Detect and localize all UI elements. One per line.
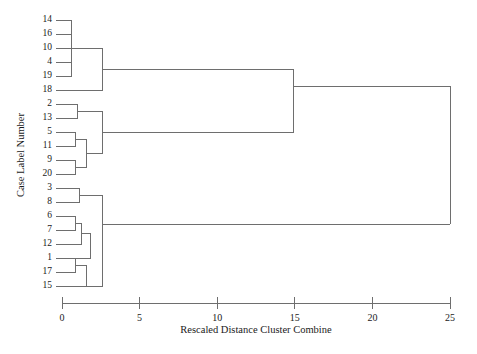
link-3-8 [63,188,79,202]
x-tick-label-20: 20 [367,312,377,323]
leaf-label-12: 12 [43,238,53,248]
link-9-20 [63,160,75,174]
y-axis-title: Case Label Number [15,113,26,197]
x-tick-label-10: 10 [212,312,222,323]
leaf-label-8: 8 [47,196,52,206]
leaf-label-17: 17 [43,266,53,276]
leaf-label-6: 6 [47,210,52,220]
link-m7-m8 [75,139,86,167]
dendrogram-link-group [63,20,450,286]
x-tick-label-15: 15 [290,312,300,323]
x-axis-tick-labels: 0510152025 [60,312,456,323]
leaf-label-20: 20 [43,168,53,178]
leaf-label-18: 18 [43,84,53,94]
link-6-7 [63,216,75,230]
link-m14-m16 [75,233,90,258]
y-axis-group: Case Label Number [15,113,26,197]
x-tick-label-5: 5 [137,312,142,323]
link-5-11 [63,132,75,146]
leaf-label-2: 2 [47,98,52,108]
leaf-stub-group [56,20,63,286]
leaf-label-1: 1 [47,252,52,262]
dendrogram-plot: 1416104191821351192038671211715 [0,0,477,354]
leaf-label-19: 19 [43,70,53,80]
leaf-label-group: 1416104191821351192038671211715 [43,14,53,290]
leaf-label-7: 7 [47,224,52,234]
x-tick-label-0: 0 [60,312,65,323]
link-m4-18 [63,48,102,90]
link-1-17 [63,258,75,272]
leaf-label-10: 10 [43,42,53,52]
link-clusterA-clusterB [143,69,293,132]
leaf-label-15: 15 [43,280,53,290]
link-2-13 [63,104,77,118]
link-m6-m9 [77,111,102,153]
link-m2-4 [63,37,71,62]
leaf-label-11: 11 [43,140,52,150]
leaf-label-16: 16 [43,28,53,38]
x-axis-group: 0510152025 Rescaled Distance Cluster Com… [60,297,456,335]
leaf-label-3: 3 [47,182,52,192]
link-m3-19 [63,50,71,76]
leaf-label-14: 14 [43,14,53,24]
link-m1-10 [63,27,71,48]
link-m13-12 [63,223,81,244]
x-axis-title: Rescaled Distance Cluster Combine [180,324,332,335]
dendrogram-figure: 1416104191821351192038671211715 [0,0,477,354]
x-tick-label-25: 25 [445,312,455,323]
leaf-label-13: 13 [43,112,53,122]
leaf-label-5: 5 [47,126,52,136]
link-14-16 [63,20,71,34]
leaf-label-9: 9 [47,154,52,164]
leaf-label-4: 4 [47,56,52,66]
